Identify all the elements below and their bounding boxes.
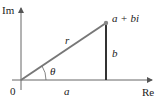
imaginary-axis-label: Im <box>2 4 15 16</box>
origin-label: 0 <box>10 85 16 97</box>
angle-label: θ <box>50 65 56 77</box>
angle-arc <box>42 66 46 80</box>
complex-plane-diagram: Im Re 0 a + bi r b a θ <box>0 0 159 105</box>
hypotenuse-label: r <box>65 34 70 46</box>
real-axis-label: Re <box>142 86 154 98</box>
horizontal-label: a <box>64 85 70 97</box>
radius-vector <box>21 23 106 80</box>
point-marker <box>104 21 108 25</box>
vertical-label: b <box>112 47 118 59</box>
point-label: a + bi <box>112 12 139 24</box>
